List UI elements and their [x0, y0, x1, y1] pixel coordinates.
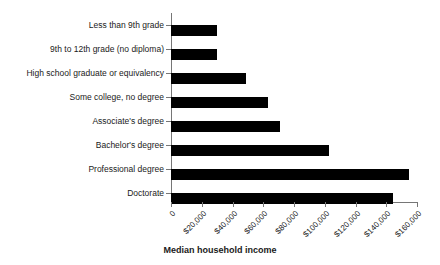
x-axis-tick: [386, 202, 387, 207]
y-axis-category-label: Less than 9th grade: [0, 20, 164, 31]
x-axis-tick: [233, 202, 234, 207]
x-axis-tick: [356, 202, 357, 207]
bar-row: [171, 91, 417, 115]
bar: [171, 49, 217, 60]
y-axis-category-label: Professional degree: [0, 164, 164, 175]
bar: [171, 145, 329, 156]
y-axis-category-label: High school graduate or equivalency: [0, 68, 164, 79]
x-axis-tick: [294, 202, 295, 207]
bar-row: [171, 163, 417, 187]
y-axis-category-label: 9th to 12th grade (no diploma): [0, 44, 164, 55]
bar: [171, 25, 217, 36]
x-axis-tick: [171, 202, 172, 207]
bar-row: [171, 187, 417, 211]
bar: [171, 193, 393, 204]
x-axis-tick: [325, 202, 326, 207]
y-axis-category-label: Some college, no degree: [0, 92, 164, 103]
x-axis-tick: [263, 202, 264, 207]
x-axis-tick: [417, 202, 418, 207]
y-axis-category-label: Bachelor's degree: [0, 140, 164, 151]
bar-chart: Less than 9th grade9th to 12th grade (no…: [0, 0, 440, 265]
bar: [171, 121, 280, 132]
bar: [171, 73, 246, 84]
bar: [171, 169, 409, 180]
bar-row: [171, 139, 417, 163]
bar-row: [171, 67, 417, 91]
bar-row: [171, 115, 417, 139]
y-axis-category-label: Associate's degree: [0, 116, 164, 127]
bar-row: [171, 19, 417, 43]
bar-row: [171, 43, 417, 67]
x-axis-title: Median household income: [0, 245, 440, 255]
x-axis-tick: [202, 202, 203, 207]
bars-container: [171, 14, 417, 202]
bar: [171, 97, 268, 108]
y-axis-category-label: Doctorate: [0, 188, 164, 199]
